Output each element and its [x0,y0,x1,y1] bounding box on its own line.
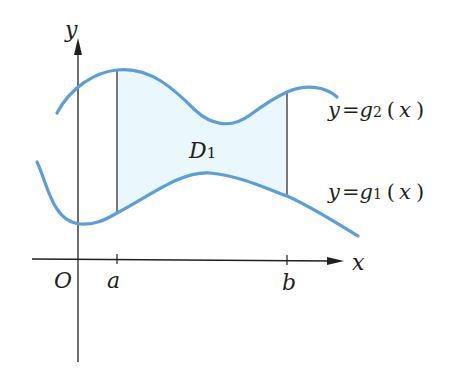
origin-label: O [54,268,72,293]
region-diagram: y x O a b D1 y=g2(x) y=g1(x) [0,0,458,386]
y-axis-label: y [64,17,78,42]
curve-label-g2: y=g2(x) [327,98,424,122]
curve-g1 [37,162,358,236]
tick-label-a: a [107,268,120,293]
region-label-sub: 1 [207,144,217,162]
curve-label-g1: y=g1(x) [327,180,424,204]
x-axis-label: x [352,250,365,275]
tick-label-b: b [282,270,296,295]
region-label-main: D [188,138,207,163]
x-axis-arrow-icon [327,257,344,265]
